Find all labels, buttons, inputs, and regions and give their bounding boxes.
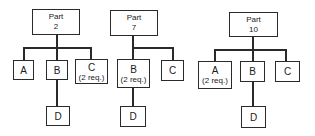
node-quantity-note: (2 req.) [202,76,228,85]
node-b: B (2 req.) [117,59,150,88]
node-c: C (2 req.) [75,59,108,84]
node-label: D [129,111,136,122]
node-b: B [240,61,265,82]
connector [214,49,286,51]
node-part-10: Part 10 [229,12,278,37]
node-a: A [13,60,34,80]
node-b: B [46,60,68,80]
connector [23,47,91,49]
node-label: C [169,65,176,76]
connector [132,88,134,106]
node-label: Part [127,13,142,23]
node-d: D [241,106,266,128]
connector [56,80,58,106]
node-label: D [250,112,257,123]
connector [252,82,254,106]
node-a: A (2 req.) [198,61,232,89]
node-label: A [20,65,27,76]
node-c: C [161,60,184,81]
connector [23,47,25,60]
node-label: B [54,65,61,76]
node-label: Part [49,12,64,22]
node-part-2: Part 2 [32,9,80,35]
connector [285,49,287,61]
node-label: Part [246,15,261,25]
node-label: C [284,66,291,77]
node-label: B [130,64,137,75]
node-label: A [212,65,219,76]
node-number: 10 [249,25,258,35]
node-c: C [275,61,300,82]
node-quantity-note: (2 req.) [121,75,147,84]
node-quantity-note: (2 req.) [79,73,105,82]
connector [90,47,92,59]
connector [132,47,173,49]
node-label: B [249,66,256,77]
connector [214,49,216,61]
node-label: C [88,62,95,73]
node-d: D [120,106,146,127]
connector [172,47,174,60]
node-label: D [54,111,61,122]
node-number: 2 [54,22,58,32]
node-d: D [46,106,70,126]
node-number: 7 [132,23,136,33]
node-part-7: Part 7 [110,10,158,36]
